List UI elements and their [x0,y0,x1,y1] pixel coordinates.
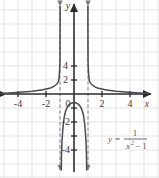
equation-equals: = [115,134,120,144]
equation-denominator-exponent: 2 [131,140,134,146]
equation-numerator: 1 [133,128,138,138]
y-tick-label-pos4: 4 [63,60,68,71]
x-tick-label-neg2: -2 [42,98,50,109]
x-axis-label: x [144,98,150,109]
x-tick-label-zero: 0 [66,98,71,109]
y-axis-label: y [65,0,71,11]
graph-figure: -4 -2 0 2 4 4 2 -2 -4 x y y = 1 x 2 − 1 [0,0,159,178]
y-tick-label-neg2: -2 [62,116,70,127]
y-tick-label-pos2: 2 [63,74,68,85]
y-tick-label-neg4: -4 [62,144,70,155]
equation-denominator-rest: − 1 [135,141,147,151]
plot-background [0,0,159,178]
x-tick-label-pos2: 2 [100,98,105,109]
equation-denominator-base: x [125,141,130,151]
x-tick-label-neg4: -4 [14,98,22,109]
equation-lhs: y [107,134,112,144]
x-tick-label-pos4: 4 [128,98,133,109]
function-plot: -4 -2 0 2 4 4 2 -2 -4 x y y = 1 x 2 − 1 [0,0,159,178]
